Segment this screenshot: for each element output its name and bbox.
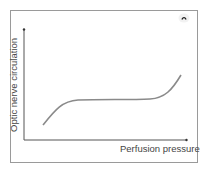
x-axis-arrow-icon (185, 139, 187, 141)
publisher-logo-icon (178, 13, 190, 23)
y-axis-label: Optic nerve circulation (6, 30, 20, 140)
y-axis-label-text: Optic nerve circulation (8, 38, 19, 132)
y-axis-arrow-icon (23, 28, 25, 30)
autoregulation-curve (43, 75, 181, 125)
x-axis-label: Perfusion pressure (120, 143, 200, 154)
